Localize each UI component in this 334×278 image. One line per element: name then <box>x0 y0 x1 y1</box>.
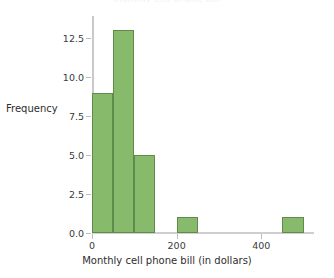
y-tick-mark <box>86 155 91 156</box>
chart-title-clipped: Monthly cell phone bill <box>0 0 334 2</box>
x-axis-title: Monthly cell phone bill (in dollars) <box>0 255 334 266</box>
histogram-bar <box>92 93 113 233</box>
x-tick-mark <box>177 234 178 239</box>
histogram-bar <box>113 30 134 233</box>
y-tick-label: 7.5 <box>69 111 84 122</box>
x-tick-mark <box>92 234 93 239</box>
y-tick-mark <box>86 194 91 195</box>
x-axis-tick-labels: 0200400 <box>92 234 314 256</box>
y-tick-mark <box>86 116 91 117</box>
y-tick-mark <box>86 233 91 234</box>
x-tick-label: 0 <box>89 240 95 251</box>
y-axis-tick-labels: 0.02.55.07.510.012.5 <box>50 18 84 233</box>
y-axis-title: Frequency <box>6 103 58 114</box>
histogram-bar <box>134 155 155 233</box>
y-tick-mark <box>86 38 91 39</box>
histogram-bar <box>177 217 198 233</box>
y-tick-label: 5.0 <box>69 150 84 161</box>
histogram-bar <box>282 217 303 233</box>
x-tick-label: 400 <box>252 240 270 251</box>
y-tick-mark <box>86 77 91 78</box>
y-tick-label: 10.0 <box>63 72 84 83</box>
y-tick-label: 2.5 <box>69 189 84 200</box>
y-tick-label: 12.5 <box>63 33 84 44</box>
y-tick-label: 0.0 <box>69 228 84 239</box>
x-tick-label: 200 <box>168 240 186 251</box>
plot-area <box>92 18 312 233</box>
histogram-figure: Monthly cell phone bill 0.02.55.07.510.0… <box>0 0 334 278</box>
x-tick-mark <box>261 234 262 239</box>
